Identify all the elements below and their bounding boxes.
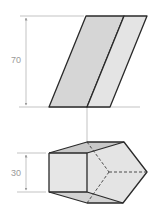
front-view: 70 <box>10 16 147 142</box>
square-face <box>49 153 87 192</box>
pentagon-face <box>87 142 147 203</box>
top-view: 30 <box>10 142 147 203</box>
height-dimension-label: 70 <box>11 55 21 65</box>
depth-dimension-label: 30 <box>11 168 21 178</box>
technical-drawing: 70 30 <box>0 0 155 220</box>
